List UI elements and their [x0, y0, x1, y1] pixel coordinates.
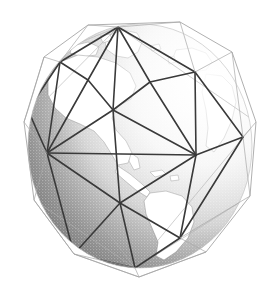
mesh-vertex: [112, 109, 114, 111]
geodesic-globe-illustration: [0, 0, 280, 291]
figure-root: Geodesic polyhedron circumscribed about …: [0, 0, 280, 291]
globe-body: [0, 0, 280, 291]
mesh-edge-mid: [195, 72, 196, 155]
mesh-vertex: [195, 154, 197, 156]
hull-strut: [44, 57, 60, 62]
hull-strut: [88, 25, 118, 27]
mesh-vertex: [119, 202, 121, 204]
hull-strut: [24, 110, 28, 122]
